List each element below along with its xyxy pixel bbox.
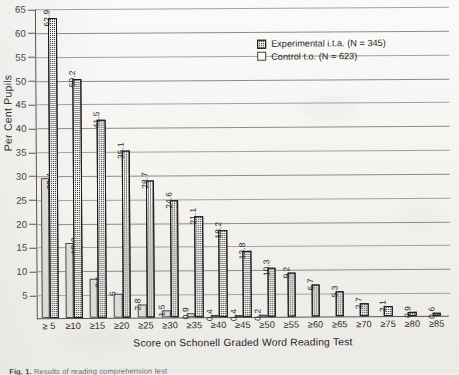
- y-axis-tick-label: 30: [16, 171, 37, 182]
- bar-value-label: 2.7: [354, 297, 364, 309]
- bar-value-label: 50.2: [66, 70, 76, 87]
- x-axis-tick-label: ≥10: [61, 321, 85, 331]
- legend-label-experimental: Experimental i.t.a. (N = 345): [271, 37, 386, 50]
- y-axis-tick-label: 15: [16, 242, 37, 253]
- x-axis-tick-label: ≥30: [158, 320, 182, 330]
- x-axis-tick-label: ≥60: [303, 319, 327, 329]
- bar-group: 29.462.9: [36, 9, 62, 318]
- bar-experimental[interactable]: 0.9: [408, 312, 417, 316]
- bar-group: 8.141.5: [84, 9, 110, 318]
- x-axis-tick-label: ≥20: [110, 321, 134, 331]
- bar-value-label: 0.9: [402, 306, 412, 318]
- bar-control[interactable]: 0.4: [235, 315, 244, 317]
- bar-experimental[interactable]: 2.1: [384, 306, 393, 316]
- bar-value-label: 21.1: [188, 208, 198, 225]
- chart-figure: Per Cent Pupils 656055504540353025201510…: [0, 0, 459, 375]
- x-axis-tick-label: ≥35: [182, 320, 206, 330]
- x-axis-tick-label: ≥70: [352, 319, 376, 329]
- bar-experimental[interactable]: 0.6: [432, 313, 441, 316]
- x-axis-title: Score on Schonell Graded Word Reading Te…: [37, 336, 449, 350]
- bar-group: 0.9: [398, 7, 424, 316]
- bar-group: 15.850.2: [60, 9, 86, 318]
- bar-experimental[interactable]: 41.5: [97, 120, 107, 318]
- y-axis-tick-label: 20: [16, 218, 37, 229]
- bar-experimental[interactable]: 9.2: [287, 273, 296, 317]
- bar-value-label: 5.3: [330, 285, 340, 297]
- bar-experimental[interactable]: 2.7: [360, 303, 369, 316]
- bar-experimental[interactable]: 24.6: [170, 200, 179, 317]
- bar-control[interactable]: 5: [114, 294, 123, 318]
- x-axis-tick-label: ≥55: [279, 320, 303, 330]
- y-axis-tick-label: 35: [16, 147, 37, 158]
- bar-group: 2.828.7: [133, 8, 159, 317]
- y-axis-tick-label: 45: [15, 99, 36, 110]
- bar-value-label: 35.1: [115, 142, 125, 159]
- bar-value-label: 2.8: [132, 298, 142, 310]
- bar-group: 0.6: [423, 7, 449, 316]
- bar-control[interactable]: 0.9: [186, 313, 195, 317]
- y-axis-title: Per Cent Pupils: [1, 75, 13, 152]
- bar-value-label: 24.6: [164, 192, 174, 209]
- bar-experimental[interactable]: 50.2: [73, 78, 83, 317]
- y-axis-tick-label: 10: [17, 266, 38, 277]
- y-axis-tick-label: 5: [22, 290, 38, 301]
- bar-groups: 29.462.915.850.28.141.5535.12.828.71.524…: [36, 7, 449, 319]
- bar-group: 0.418.2: [205, 8, 231, 317]
- bar-control[interactable]: 8.1: [89, 279, 98, 318]
- x-axis-tick-label: ≥15: [85, 321, 109, 331]
- bar-value-label: 1.5: [156, 304, 166, 316]
- bar-experimental[interactable]: 6.7: [311, 284, 320, 316]
- x-axis-tick-label: ≥ 5: [37, 321, 61, 331]
- legend-label-control: Control t.o. (N = 623): [271, 50, 357, 63]
- bar-experimental[interactable]: 18.2: [219, 230, 228, 317]
- x-axis-tick-label: ≥50: [255, 320, 279, 330]
- bar-control[interactable]: 2.8: [138, 304, 147, 317]
- x-axis-tick-labels: ≥ 5≥10≥15≥20≥25≥30≥35≥40≥45≥50≥55≥60≥65≥…: [37, 319, 449, 332]
- bar-experimental[interactable]: 13.8: [243, 251, 252, 317]
- bar-experimental[interactable]: 5.3: [336, 291, 345, 316]
- y-axis-tick-label: 60: [15, 28, 36, 39]
- x-axis-tick-label: ≥45: [231, 320, 255, 330]
- x-axis-tick-label: ≥75: [376, 319, 400, 329]
- x-axis-tick-label: ≥40: [206, 320, 230, 330]
- bar-group: 0.921.1: [181, 8, 207, 317]
- x-axis-tick-label: ≥80: [400, 319, 424, 329]
- bar-value-label: 18.2: [212, 222, 222, 239]
- bar-value-label: 28.7: [140, 172, 150, 189]
- y-axis-tick-label: 50: [15, 75, 36, 86]
- legend: Experimental i.t.a. (N = 345) Control t.…: [257, 37, 386, 63]
- legend-swatch-control: [257, 52, 266, 61]
- y-axis-tick-label: 65: [15, 4, 36, 15]
- bar-experimental[interactable]: 62.9: [48, 18, 58, 318]
- caption-text: Results of reading comprehension test: [34, 366, 167, 375]
- bar-group: 1.524.6: [157, 8, 183, 317]
- bar-value-label: 0.6: [426, 307, 436, 319]
- x-axis-tick-label: ≥85: [425, 319, 449, 329]
- bar-value-label: 9.2: [281, 267, 291, 279]
- bar-experimental[interactable]: 28.7: [146, 181, 155, 318]
- bar-group: 0.413.8: [229, 8, 255, 317]
- bar-control[interactable]: 0.4: [211, 315, 220, 317]
- bar-control[interactable]: 0.2: [259, 315, 268, 317]
- x-axis-tick-label: ≥65: [328, 319, 352, 329]
- legend-item-control: Control t.o. (N = 623): [257, 50, 386, 63]
- y-axis-tick-label: 40: [16, 123, 37, 134]
- bar-experimental[interactable]: 35.1: [121, 150, 131, 317]
- x-axis-tick-label: ≥25: [134, 320, 158, 330]
- bar-value-label: 41.5: [91, 112, 101, 129]
- bar-experimental[interactable]: 10.3: [267, 268, 276, 317]
- bar-experimental[interactable]: 21.1: [194, 217, 203, 318]
- bar-value-label: 2.1: [378, 300, 388, 312]
- y-axis-tick-label: 55: [15, 51, 36, 62]
- bar-value-label: 0.9: [180, 307, 190, 319]
- y-axis-tick-label: 25: [16, 194, 37, 205]
- bar-value-label: 62.9: [42, 10, 52, 27]
- bar-value-label: 13.8: [237, 243, 247, 260]
- bar-control[interactable]: 1.5: [162, 310, 171, 317]
- bar-value-label: 6.7: [305, 279, 315, 291]
- legend-item-experimental: Experimental i.t.a. (N = 345): [257, 37, 386, 50]
- bar-value-label: 10.3: [261, 259, 271, 276]
- caption-label: Fig. 1.: [9, 367, 32, 375]
- bar-value-label: 5: [108, 291, 118, 296]
- legend-swatch-experimental: [257, 40, 266, 49]
